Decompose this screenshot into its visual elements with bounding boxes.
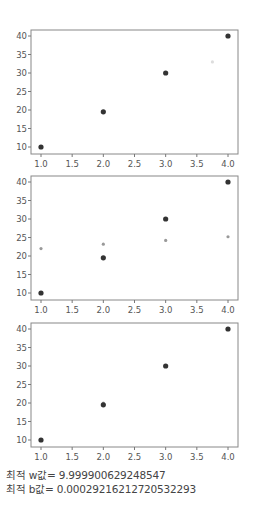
- plot-1-canvas: 101520253035401.01.52.02.53.03.54.0: [0, 0, 255, 170]
- plot-frame: [31, 176, 238, 300]
- y-tick-label: 40: [16, 324, 27, 334]
- scatter-plot-3: 101520253035401.01.52.02.53.03.54.0: [0, 293, 255, 463]
- y-tick-label: 35: [16, 50, 27, 60]
- y-tick-label: 25: [16, 87, 27, 97]
- x-tick-label: 2.0: [97, 452, 111, 462]
- scatter-plot-1: 101520253035401.01.52.02.53.03.54.0: [0, 0, 255, 170]
- plot-3-canvas: 101520253035401.01.52.02.53.03.54.0: [0, 293, 255, 463]
- data-point: [101, 255, 106, 260]
- x-tick-label: 1.5: [65, 452, 79, 462]
- y-tick-label: 40: [16, 31, 27, 41]
- data-point: [225, 33, 230, 38]
- data-point: [101, 109, 106, 114]
- x-tick-label: 4.0: [221, 452, 235, 462]
- data-point: [163, 216, 168, 221]
- y-tick-label: 25: [16, 233, 27, 243]
- scatter-plot-2: 101520253035401.01.52.02.53.03.54.0: [0, 146, 255, 316]
- y-tick-label: 15: [16, 124, 27, 134]
- data-point: [39, 247, 42, 250]
- x-tick-label: 3.5: [190, 452, 204, 462]
- data-point: [163, 363, 168, 368]
- data-point: [225, 326, 230, 331]
- x-tick-label: 1.0: [34, 452, 48, 462]
- data-point: [102, 243, 105, 246]
- data-point: [163, 70, 168, 75]
- data-point: [225, 179, 230, 184]
- y-tick-label: 30: [16, 214, 27, 224]
- y-tick-label: 35: [16, 196, 27, 206]
- x-tick-label: 2.5: [128, 452, 142, 462]
- y-tick-label: 35: [16, 343, 27, 353]
- plot-frame: [31, 323, 238, 447]
- y-tick-label: 20: [16, 251, 27, 261]
- y-tick-label: 30: [16, 361, 27, 371]
- y-tick-label: 15: [16, 417, 27, 427]
- optimal-w-text: 최적 w값= 9.999900629248547: [6, 467, 166, 482]
- optimal-b-text: 최적 b값= 0.00029216212720532293: [6, 481, 196, 496]
- y-tick-label: 40: [16, 177, 27, 187]
- data-point: [101, 402, 106, 407]
- plot-2-canvas: 101520253035401.01.52.02.53.03.54.0: [0, 146, 255, 316]
- y-tick-label: 15: [16, 270, 27, 280]
- data-point: [211, 60, 214, 63]
- data-point: [164, 239, 167, 242]
- y-tick-label: 25: [16, 380, 27, 390]
- y-tick-label: 10: [16, 435, 27, 445]
- y-tick-label: 20: [16, 105, 27, 115]
- data-point: [226, 235, 229, 238]
- data-point: [38, 437, 43, 442]
- plot-frame: [31, 30, 238, 154]
- y-tick-label: 30: [16, 68, 27, 78]
- y-tick-label: 20: [16, 398, 27, 408]
- x-tick-label: 3.0: [159, 452, 173, 462]
